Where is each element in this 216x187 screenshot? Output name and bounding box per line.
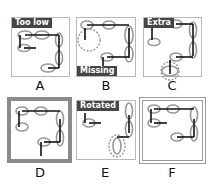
panel-letter-c: C (162, 79, 182, 93)
panel-letter-f: F (162, 166, 182, 180)
panel-letter-a: A (30, 79, 50, 93)
panel-d (7, 97, 72, 163)
label-missing: Missing (77, 66, 117, 76)
panel-e: Rotated (76, 100, 136, 160)
panel-letter-b: B (96, 79, 116, 93)
panel-letter-d: D (30, 166, 50, 180)
label-rotated: Rotated (77, 101, 119, 111)
chain-diagram-icon (143, 101, 202, 160)
label-too-low: Too low (12, 18, 52, 28)
chain-diagram-icon (11, 101, 68, 159)
panel-letter-e: E (95, 166, 115, 180)
panel-c: Extra (143, 17, 202, 77)
label-extra: Extra (144, 18, 174, 28)
panel-b: Missing (76, 17, 136, 77)
panel-a: Too low (11, 17, 70, 77)
panel-f (139, 97, 206, 164)
